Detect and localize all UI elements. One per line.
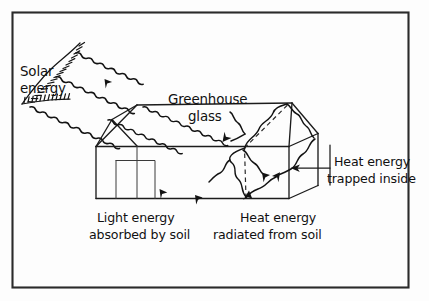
solar-ray-2-wavy-arrow-icon: [56, 77, 134, 114]
light-wave-a: [108, 120, 182, 199]
heat-wave-down-to-soil: [243, 177, 276, 200]
heat-wave-rising: [230, 148, 246, 197]
heat-trapped-label-line1: Heat energy: [334, 154, 411, 169]
diagram-canvas: Solar energy Greenhouse glass Light ener…: [0, 0, 429, 301]
heat-trapped-label-line2: trapped inside: [327, 171, 416, 186]
light-absorbed-label-line2: absorbed by soil: [89, 227, 190, 242]
heat-wave-return-left: [272, 139, 315, 182]
heat-trapped-pointer: [291, 145, 331, 185]
heat-path-vertical-dashed: [245, 148, 247, 198]
heat-wave-reflected-down: [243, 150, 270, 182]
solar-ray-3-wavy-arrow-icon: [30, 107, 120, 149]
greenhouse-effect-diagram: Solar energy Greenhouse glass Light ener…: [0, 0, 429, 301]
heat-wave-lower-left-tail: [209, 160, 230, 182]
heat-wave-roof-entry: [223, 112, 246, 142]
solar-energy-label-line1: Solar: [20, 64, 54, 79]
light-absorbed-label-line1: Light energy: [97, 210, 175, 225]
heat-radiated-label-line1: Heat energy: [240, 210, 317, 225]
diagram-frame: [13, 13, 409, 288]
heat-radiated-label-line2: radiated from soil: [213, 227, 322, 242]
solar-energy-label-line2: energy: [20, 81, 66, 96]
greenhouse-glass-label-line2: glass: [188, 109, 222, 124]
solar-ray-1-wavy-arrow-icon: [76, 53, 143, 89]
greenhouse-glass-label-line1: Greenhouse: [168, 92, 247, 107]
heat-path-diagonal-dashed: [245, 105, 289, 149]
